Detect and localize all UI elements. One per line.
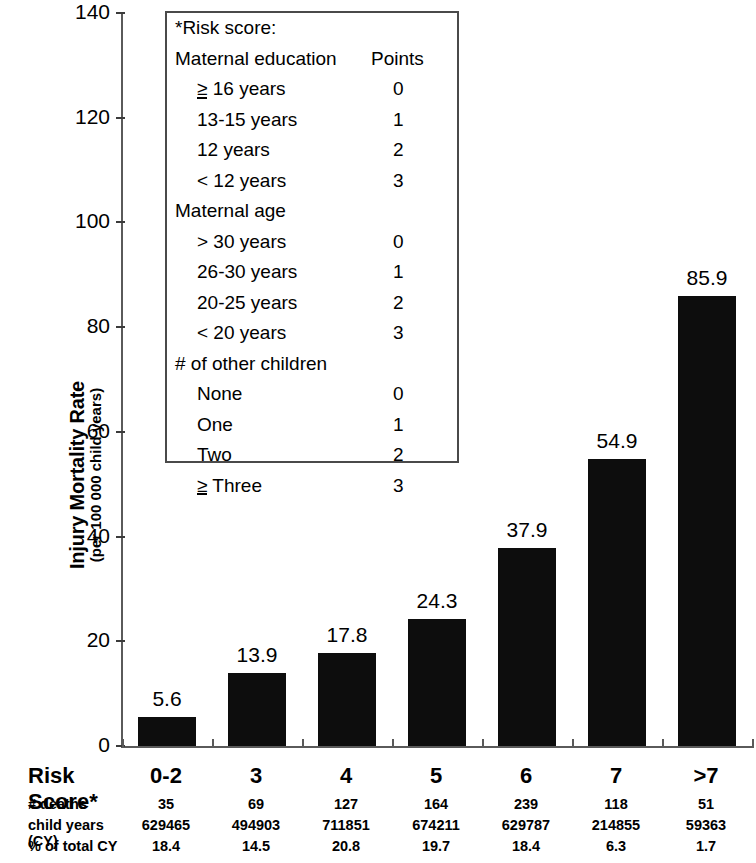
risk-criterion-points: 2 <box>393 139 453 161</box>
x-tick-mark <box>662 739 664 748</box>
risk-criterion-points: 0 <box>393 231 453 253</box>
x-axis-line <box>121 746 752 748</box>
y-tick-label: 80 <box>58 314 110 338</box>
x-tick-mark <box>392 739 394 748</box>
bottom-table-cell: 629787 <box>481 817 571 833</box>
risk-section-heading-row: # of other children <box>167 353 457 384</box>
y-tick-mark <box>116 640 125 642</box>
bottom-table-cell: 18.4 <box>481 838 571 854</box>
risk-criterion-label: One <box>167 414 393 436</box>
risk-criterion-label: None <box>167 383 393 405</box>
bottom-table-header-cell: 7 <box>571 763 661 789</box>
bottom-table-header-cell: 6 <box>481 763 571 789</box>
risk-criterion-points: 1 <box>393 414 453 436</box>
bar <box>408 619 466 746</box>
risk-section-heading: # of other children <box>167 353 371 375</box>
risk-criterion-points: 3 <box>393 170 453 192</box>
bottom-table-row: % of total CY18.414.520.819.718.46.31.7 <box>0 838 756 859</box>
risk-box-rows: Maternal educationPoints≥ 16 years013-15… <box>167 48 457 506</box>
bottom-table-row-label: # deaths <box>0 796 121 812</box>
bar-value-label: 13.9 <box>212 643 302 667</box>
bottom-table-cell: 1.7 <box>661 838 751 854</box>
y-tick-label: 100 <box>58 209 110 233</box>
x-tick-mark <box>752 739 754 748</box>
bottom-table-header-cell: 3 <box>211 763 301 789</box>
x-tick-mark <box>572 739 574 748</box>
risk-criterion-label: 26-30 years <box>167 261 393 283</box>
bar <box>678 296 736 746</box>
risk-criterion-row: < 12 years3 <box>167 170 457 201</box>
risk-box-title-row: *Risk score: <box>167 17 457 48</box>
y-tick-mark <box>116 12 125 14</box>
bottom-table-cell: 164 <box>391 796 481 812</box>
bottom-table-cell: 239 <box>481 796 571 812</box>
risk-criterion-row: < 20 years3 <box>167 322 457 353</box>
bar <box>588 459 646 746</box>
risk-box-title: *Risk score: <box>167 17 371 39</box>
bottom-table-data-rows: # deaths356912716423911851child years (C… <box>0 796 756 859</box>
risk-criterion-row: ≥ Three3 <box>167 475 457 506</box>
y-tick-label: 40 <box>58 524 110 548</box>
x-tick-mark <box>122 739 124 748</box>
risk-criterion-row: Two2 <box>167 444 457 475</box>
y-axis-title-sub: (per 100 000 child years) <box>88 325 104 625</box>
risk-criterion-points: 0 <box>393 383 453 405</box>
bottom-table-header-cell: 4 <box>301 763 391 789</box>
y-tick-mark <box>116 221 125 223</box>
bottom-table-cell: 711851 <box>301 817 391 833</box>
bar-value-label: 24.3 <box>392 589 482 613</box>
risk-criterion-label: < 12 years <box>167 170 393 192</box>
bar-value-label: 54.9 <box>572 429 662 453</box>
bottom-table-cell: 20.8 <box>301 838 391 854</box>
bar-value-label: 37.9 <box>482 518 572 542</box>
risk-criterion-points: 0 <box>393 78 453 100</box>
bottom-data-table: Risk Score* 0-234567>7 # deaths356912716… <box>0 763 756 859</box>
risk-criterion-row: ≥ 16 years0 <box>167 78 457 109</box>
bottom-table-header-cell: >7 <box>661 763 751 789</box>
bottom-table-cell: 14.5 <box>211 838 301 854</box>
risk-criterion-row: None0 <box>167 383 457 414</box>
bottom-table-header-row: Risk Score* 0-234567>7 <box>0 763 756 796</box>
risk-criterion-points: 3 <box>393 322 453 344</box>
risk-criterion-label: ≥ 16 years <box>167 78 393 100</box>
risk-criterion-label: 12 years <box>167 139 393 161</box>
y-tick-mark <box>116 536 125 538</box>
risk-criterion-points: 2 <box>393 444 453 466</box>
y-tick-mark <box>116 431 125 433</box>
risk-points-heading: Points <box>371 48 431 70</box>
bottom-table-cell: 6.3 <box>571 838 661 854</box>
bottom-table-cell: 51 <box>661 796 751 812</box>
risk-section-heading: Maternal age <box>167 200 371 222</box>
risk-criterion-label: 13-15 years <box>167 109 393 131</box>
y-tick-label: 0 <box>58 733 110 757</box>
y-tick-label: 60 <box>58 419 110 443</box>
x-tick-mark <box>482 739 484 748</box>
risk-criterion-points: 3 <box>393 475 453 497</box>
risk-criterion-label: < 20 years <box>167 322 393 344</box>
risk-criterion-row: 26-30 years1 <box>167 261 457 292</box>
bottom-table-cell: 35 <box>121 796 211 812</box>
bottom-table-cell: 19.7 <box>391 838 481 854</box>
bottom-table-row-label: % of total CY <box>0 838 121 854</box>
risk-criterion-row: 12 years2 <box>167 139 457 170</box>
risk-criterion-row: One1 <box>167 414 457 445</box>
bar-value-label: 85.9 <box>662 266 752 290</box>
bottom-table-cell: 214855 <box>571 817 661 833</box>
bar-value-label: 17.8 <box>302 623 392 647</box>
y-axis-title-main: Injury Mortality Rate <box>67 325 88 625</box>
x-tick-mark <box>302 739 304 748</box>
bottom-table-header-cell: 0-2 <box>121 763 211 789</box>
risk-criterion-points: 1 <box>393 261 453 283</box>
bar <box>318 653 376 746</box>
risk-section-heading: Maternal education <box>167 48 371 70</box>
risk-criterion-points: 1 <box>393 109 453 131</box>
bottom-table-cell: 127 <box>301 796 391 812</box>
risk-criterion-label: > 30 years <box>167 231 393 253</box>
risk-section-heading-row: Maternal educationPoints <box>167 48 457 79</box>
bottom-table-cell: 494903 <box>211 817 301 833</box>
risk-criterion-label: 20-25 years <box>167 292 393 314</box>
y-tick-label: 120 <box>58 105 110 129</box>
risk-criterion-points: 2 <box>393 292 453 314</box>
bottom-table-cell: 69 <box>211 796 301 812</box>
risk-section-heading-row: Maternal age <box>167 200 457 231</box>
